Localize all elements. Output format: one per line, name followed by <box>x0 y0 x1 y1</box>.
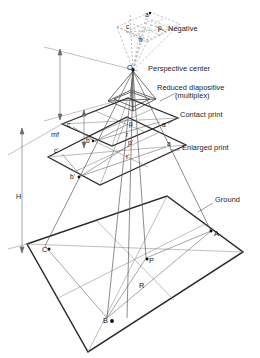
point-label-negative-a: a <box>145 11 149 18</box>
point-label-ground-R: R <box>139 281 144 290</box>
dimension-mf-group <box>58 49 62 120</box>
point-label-negative-p: p <box>158 24 162 31</box>
ground-grid-1 <box>97 221 174 300</box>
point-label-enlarged-r: r' <box>126 153 129 160</box>
label-ground: Ground <box>215 195 240 204</box>
line-P-A <box>146 231 211 258</box>
point-label-ground-B: B <box>103 316 108 325</box>
line-bp-ap-enlarged <box>81 147 166 176</box>
ground-plane-detail <box>27 196 243 352</box>
dim-H-arrow-bottom <box>20 247 24 253</box>
contact-print-detail <box>62 98 178 146</box>
datum-ground-level <box>8 244 27 249</box>
dim-mf-arrow-top <box>58 49 62 55</box>
figure-canvas: Negative Perspective center Reduced diap… <box>0 0 260 358</box>
datum-diapositive-level <box>44 100 120 121</box>
vertical-axis-group <box>127 15 133 318</box>
point-label-enlarged-b: b' <box>70 173 75 180</box>
point-label-negative-c: c <box>126 23 129 30</box>
label-contact-print: Contact print <box>180 110 223 119</box>
marker-bp-enlarged <box>78 176 81 179</box>
leader-ground <box>198 203 213 212</box>
ground-plane-outline <box>27 196 243 352</box>
leader-diapositive <box>160 93 176 101</box>
point-markers-group <box>48 12 213 323</box>
ray-O-to-C <box>45 71 133 246</box>
optical-axis-upper <box>130 15 133 70</box>
datum-negative-level <box>44 47 138 71</box>
marker-a-negative <box>149 12 151 14</box>
point-label-enlarged-p: p' <box>128 139 133 146</box>
point-label-enlarged-c: c' <box>54 147 59 154</box>
point-label-contact-p: p <box>129 120 133 127</box>
ground-plane-group <box>27 196 243 352</box>
point-label-ground-C: C <box>42 245 47 254</box>
ray-O-neg-p <box>133 18 146 70</box>
line-B-C <box>45 246 107 318</box>
dim-H-arrow-top <box>20 128 24 134</box>
point-label-contact-b: b <box>86 137 90 144</box>
label-perspective-center: Perspective center <box>148 64 210 73</box>
point-label-negative-b: b <box>139 36 143 43</box>
datum-lines-group <box>8 47 138 249</box>
point-label-contact-r: r <box>126 131 128 138</box>
optical-axis <box>127 70 133 318</box>
point-label-contact-c: c <box>67 121 70 128</box>
diagram-vector-layer <box>0 0 260 358</box>
negative-edge-left <box>117 27 148 40</box>
marker-C <box>48 248 51 251</box>
point-label-enlarged-a: a <box>167 140 171 147</box>
marker-b-contact <box>92 140 94 142</box>
point-label-ground-A: A <box>214 229 219 238</box>
point-label-O: O <box>127 63 133 72</box>
dim-f-arrow-top <box>82 110 86 116</box>
point-label-ground-P: P <box>149 256 154 265</box>
ground-diag-1 <box>27 244 243 252</box>
point-label-contact-a: a <box>162 121 166 128</box>
ray-O-to-B <box>107 71 133 318</box>
marker-B <box>110 319 114 323</box>
marker-A <box>210 230 213 233</box>
dimension-H-group <box>20 128 24 253</box>
label-multiplex: (multiplex) <box>175 91 210 100</box>
dimension-label-H: H <box>16 192 21 201</box>
label-enlarged-print: Enlarged print <box>182 143 229 152</box>
dimension-label-mf: mf <box>51 130 59 139</box>
label-negative: Negative <box>168 24 198 33</box>
line-B-A <box>107 231 211 318</box>
